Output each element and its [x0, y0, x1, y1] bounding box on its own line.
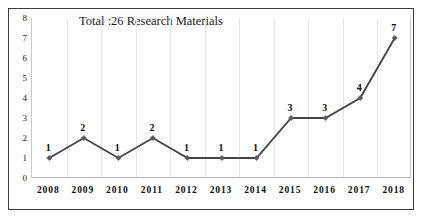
data-point-label: 3 — [322, 103, 327, 113]
data-point-marker — [219, 155, 224, 160]
y-axis-tick-label: 7 — [9, 34, 27, 43]
series-line — [49, 38, 394, 158]
y-axis-tick-label: 3 — [9, 114, 27, 123]
y-axis-tick-label: 0 — [9, 174, 27, 183]
plot-area — [31, 18, 411, 178]
data-point-label: 7 — [391, 23, 396, 33]
x-axis-tick-label: 2012 — [169, 186, 204, 196]
y-axis-tick-label: 8 — [9, 14, 27, 23]
data-point-label: 1 — [253, 143, 258, 153]
chart-frame: Total :26 Research Materials 876543210 1… — [8, 8, 414, 210]
chart-screenshot: Total :26 Research Materials 876543210 1… — [0, 0, 423, 223]
line-series-svg — [32, 18, 412, 178]
y-axis-tick-label: 6 — [9, 54, 27, 63]
y-axis-tick-label: 1 — [9, 154, 27, 163]
x-axis-tick-label: 2011 — [135, 186, 170, 196]
data-point-label: 4 — [357, 83, 362, 93]
data-point-label: 3 — [288, 103, 293, 113]
x-axis-tick-label: 2015 — [273, 186, 308, 196]
data-point-label: 1 — [115, 143, 120, 153]
data-point-label: 1 — [219, 143, 224, 153]
data-point-label: 1 — [184, 143, 189, 153]
x-axis-tick-label: 2014 — [238, 186, 273, 196]
x-axis-tick-label: 2018 — [376, 186, 411, 196]
x-axis-tick-label: 2009 — [66, 186, 101, 196]
data-point-label: 2 — [149, 123, 154, 133]
y-axis-tick-label: 2 — [9, 134, 27, 143]
x-axis-tick-label: 2013 — [204, 186, 239, 196]
x-axis-tick-label: 2017 — [342, 186, 377, 196]
x-axis-tick-label: 2010 — [100, 186, 135, 196]
y-axis-tick-label: 4 — [9, 94, 27, 103]
data-point-label: 1 — [46, 143, 51, 153]
x-axis-tick-label: 2008 — [31, 186, 66, 196]
x-axis-tick-label: 2016 — [307, 186, 342, 196]
y-axis-tick-label: 5 — [9, 74, 27, 83]
data-point-label: 2 — [80, 123, 85, 133]
